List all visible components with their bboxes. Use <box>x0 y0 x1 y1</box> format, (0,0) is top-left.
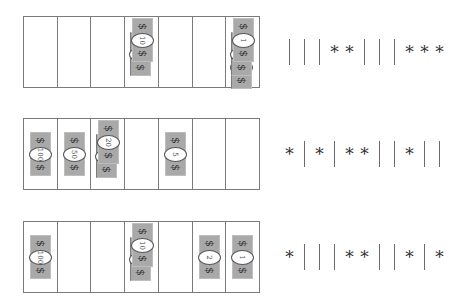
stars-and-bars: ***** <box>282 32 447 72</box>
bar-symbol <box>297 244 312 270</box>
denomination-box: $100$$50$$20$$20$$5$ <box>23 118 260 190</box>
slot-100: $100$ <box>24 222 58 292</box>
dollar-bill: $100$ <box>30 132 51 176</box>
slot-50 <box>58 17 92 87</box>
bar-symbol <box>387 141 402 167</box>
bar-symbol <box>312 39 327 65</box>
slot-50 <box>58 222 92 292</box>
star-symbol: * <box>282 247 297 267</box>
dollar-sign-icon: $ <box>35 261 46 280</box>
dollar-sign-icon: $ <box>69 158 80 177</box>
bar-symbol <box>297 39 312 65</box>
slot-100: $100$ <box>24 119 58 189</box>
star-symbol: * <box>402 42 417 62</box>
bar-symbol <box>417 141 432 167</box>
slot-1: $1$ <box>226 222 259 292</box>
slot-50: $50$ <box>58 119 92 189</box>
bar-symbol <box>372 244 387 270</box>
star-symbol: * <box>402 247 417 267</box>
dollar-sign-icon: $ <box>137 249 148 268</box>
star-symbol: * <box>282 144 297 164</box>
bar-symbol <box>357 39 372 65</box>
denomination-box: $10$$10$$1$$1$$1$ <box>23 16 260 88</box>
dollar-bill: $20$ <box>98 120 119 164</box>
dollar-sign-icon: $ <box>137 44 148 63</box>
slot-1 <box>226 119 259 189</box>
dollar-bill: $50$ <box>64 132 85 176</box>
dollar-bill: $5$ <box>165 132 186 176</box>
bar-symbol <box>387 244 402 270</box>
slot-2: $2$ <box>193 222 227 292</box>
slot-20 <box>91 17 125 87</box>
dollar-bill: $2$ <box>199 235 220 279</box>
slot-20: $20$$20$ <box>91 119 125 189</box>
slot-2 <box>193 17 227 87</box>
star-symbol: * <box>432 247 447 267</box>
bar-symbol <box>312 244 327 270</box>
slot-2 <box>193 119 227 189</box>
slot-5 <box>159 222 193 292</box>
star-symbol: * <box>402 144 417 164</box>
bar-symbol <box>327 244 342 270</box>
dollar-bill: $1$ <box>232 235 253 279</box>
slot-20 <box>91 222 125 292</box>
stars-and-bars: ***** <box>282 134 447 174</box>
bar-symbol <box>432 141 447 167</box>
slot-10 <box>125 119 159 189</box>
star-symbol: * <box>417 42 432 62</box>
dollar-sign-icon: $ <box>238 44 249 63</box>
slot-5: $5$ <box>159 119 193 189</box>
bar-symbol <box>282 39 297 65</box>
dollar-sign-icon: $ <box>103 146 114 165</box>
dollar-bill: $100$ <box>30 235 51 279</box>
dollar-bill: $10$ <box>132 223 153 267</box>
bar-symbol <box>387 39 402 65</box>
denomination-box: $100$$10$$10$$2$$1$ <box>23 221 260 293</box>
star-symbol: * <box>342 247 357 267</box>
slot-100 <box>24 17 58 87</box>
bar-symbol <box>327 141 342 167</box>
dollar-sign-icon: $ <box>170 158 181 177</box>
bar-symbol <box>417 244 432 270</box>
star-symbol: * <box>312 144 327 164</box>
star-symbol: * <box>342 42 357 62</box>
dollar-bill: $10$ <box>132 18 153 62</box>
star-symbol: * <box>432 42 447 62</box>
dollar-bill: $1$ <box>233 18 254 62</box>
star-symbol: * <box>327 42 342 62</box>
bar-symbol <box>372 39 387 65</box>
dollar-sign-icon: $ <box>35 158 46 177</box>
dollar-sign-icon: $ <box>204 261 215 280</box>
dollar-sign-icon: $ <box>237 261 248 280</box>
star-symbol: * <box>342 144 357 164</box>
stars-and-bars: ***** <box>282 237 447 277</box>
slot-10: $10$$10$ <box>125 222 159 292</box>
star-symbol: * <box>357 144 372 164</box>
bar-symbol <box>297 141 312 167</box>
slot-10: $10$$10$ <box>125 17 159 87</box>
slot-1: $1$$1$$1$ <box>226 17 259 87</box>
slot-5 <box>159 17 193 87</box>
star-symbol: * <box>357 247 372 267</box>
bar-symbol <box>372 141 387 167</box>
